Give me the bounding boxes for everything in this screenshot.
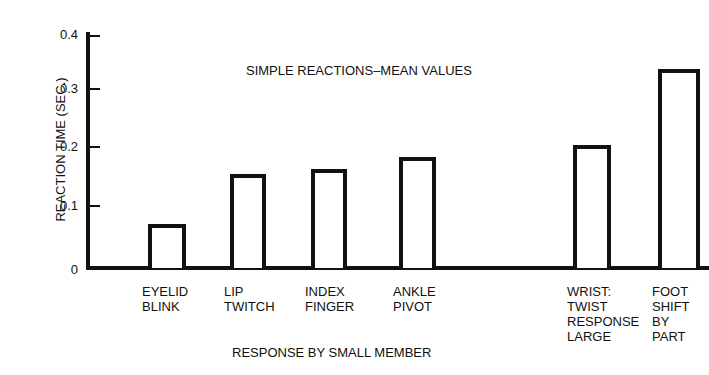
category-label: LIP TWITCH (224, 284, 275, 314)
bar (399, 157, 436, 268)
chart-title: SIMPLE REACTIONS–MEAN VALUES (246, 63, 472, 78)
y-tick-label: 0.1 (38, 198, 78, 213)
bar (311, 169, 347, 268)
category-label: ANKLE PIVOT (393, 284, 436, 314)
y-axis-line (86, 32, 90, 270)
y-tick-label: 0.4 (38, 27, 78, 42)
y-tick-label: 0.2 (38, 139, 78, 154)
y-tick-0.4 (88, 35, 100, 37)
category-label: WRIST: TWIST RESPONSE LARGE (567, 284, 639, 344)
bar (148, 224, 186, 268)
y-tick-0.2 (88, 146, 100, 148)
bar (230, 174, 266, 268)
y-tick-label: 0.3 (38, 81, 78, 96)
y-tick-label: 0 (38, 262, 78, 277)
x-axis-label: RESPONSE BY SMALL MEMBER (232, 345, 431, 360)
category-label: EYELID BLINK (142, 284, 188, 314)
bar (658, 69, 700, 268)
bar (573, 145, 611, 268)
y-tick-0.1 (88, 205, 100, 207)
y-tick-0.3 (88, 88, 100, 90)
category-label: INDEX FINGER (305, 284, 354, 314)
category-label: FOOT SHIFT BY PART (652, 284, 690, 344)
